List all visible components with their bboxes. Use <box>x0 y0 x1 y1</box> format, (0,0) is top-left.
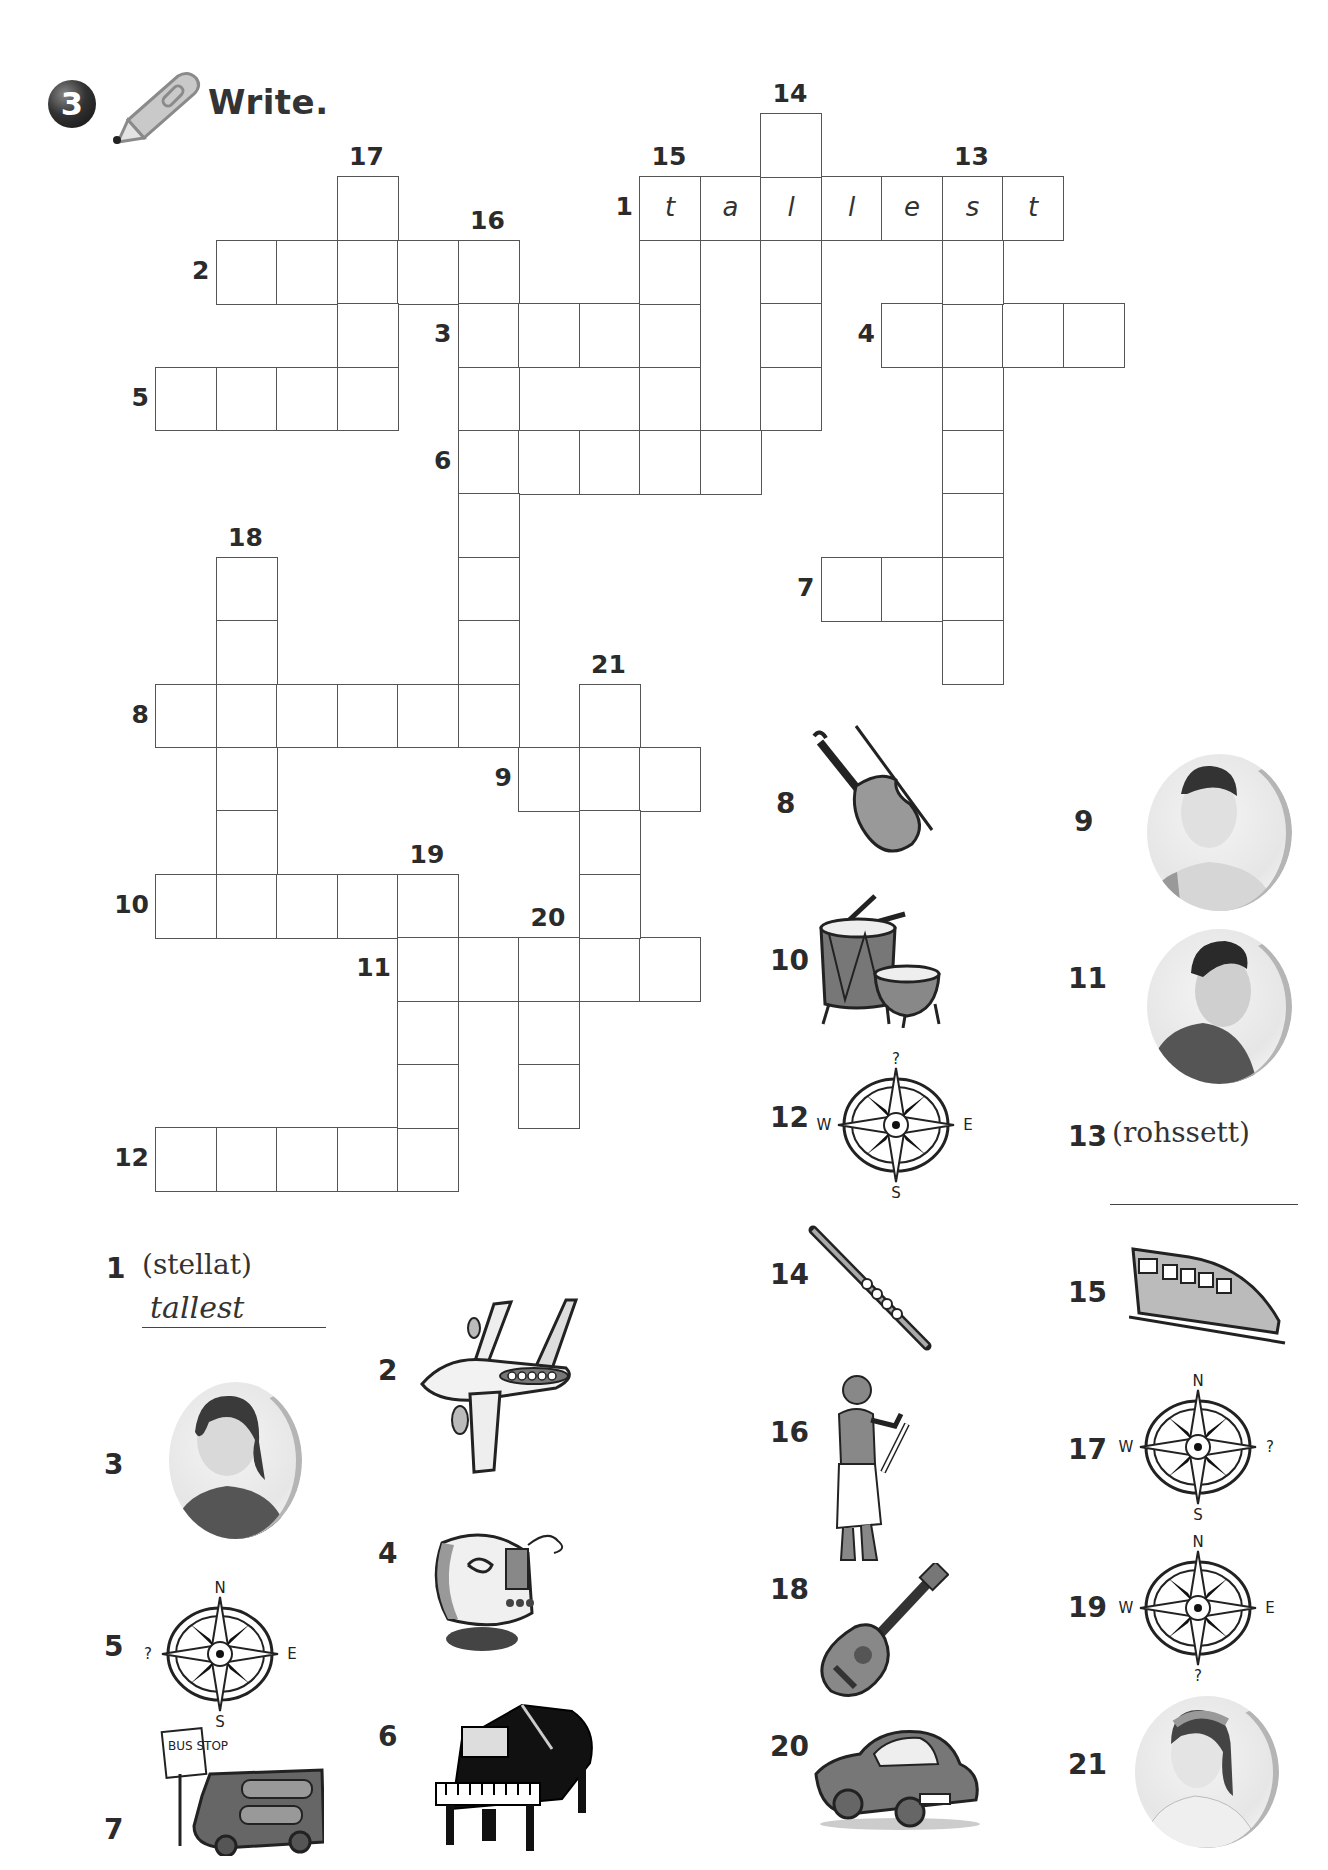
crossword-cell[interactable] <box>458 557 520 622</box>
crossword-cell[interactable] <box>579 747 641 812</box>
crossword-cell[interactable] <box>579 874 641 939</box>
crossword-cell[interactable] <box>760 113 822 178</box>
crossword-cell[interactable] <box>639 240 701 305</box>
clue-number: 1 <box>106 1252 125 1285</box>
crossword-cell[interactable] <box>639 937 701 1002</box>
crossword-cell[interactable] <box>639 303 701 368</box>
crossword-cell[interactable] <box>216 620 278 685</box>
crossword-cell[interactable] <box>155 1127 217 1192</box>
crossword-cell[interactable] <box>458 367 520 432</box>
crossword-cell[interactable] <box>216 684 278 749</box>
crossword-cell[interactable]: l <box>760 176 822 241</box>
crossword-cell[interactable] <box>760 240 822 305</box>
bus-stop-icon: BUS STOP <box>154 1726 324 1856</box>
crossword-cell[interactable] <box>458 937 520 1002</box>
crossword-cell[interactable] <box>760 367 822 432</box>
crossword-cell[interactable] <box>337 303 399 368</box>
crossword-cell[interactable] <box>1002 303 1064 368</box>
crossword-cell[interactable] <box>155 367 217 432</box>
crossword-cell[interactable] <box>397 240 459 305</box>
crossword-cell[interactable] <box>337 240 399 305</box>
crossword-cell[interactable] <box>639 747 701 812</box>
crossword-cell[interactable] <box>155 874 217 939</box>
crossword-cell[interactable] <box>216 367 278 432</box>
crossword-cell[interactable] <box>458 684 520 749</box>
crossword-cell[interactable] <box>518 303 580 368</box>
crossword-cell[interactable] <box>518 1064 580 1129</box>
crossword-cell[interactable] <box>397 937 459 1002</box>
crossword-cell[interactable] <box>337 874 399 939</box>
crossword-cell[interactable] <box>337 176 399 241</box>
crossword-cell[interactable] <box>942 430 1004 495</box>
crossword-cell[interactable]: t <box>639 176 701 241</box>
crossword-cell[interactable] <box>397 684 459 749</box>
crossword-cell[interactable] <box>276 367 338 432</box>
crossword-cell[interactable]: e <box>881 176 943 241</box>
crossword-cell[interactable] <box>639 430 701 495</box>
crossword-cell[interactable] <box>579 430 641 495</box>
answer-line[interactable] <box>1110 1204 1298 1205</box>
crossword-cell[interactable] <box>458 493 520 558</box>
down-clue-number: 18 <box>216 523 276 552</box>
crossword-cell[interactable] <box>518 747 580 812</box>
crossword-cell[interactable] <box>397 1127 459 1192</box>
crossword-cell[interactable] <box>881 557 943 622</box>
crossword-cell[interactable] <box>639 367 701 432</box>
clue-number: 18 <box>770 1573 809 1606</box>
crossword-cell[interactable] <box>579 303 641 368</box>
crossword-cell[interactable] <box>397 1064 459 1129</box>
crossword-cell[interactable] <box>700 430 762 495</box>
crossword-cell[interactable] <box>579 937 641 1002</box>
clue-number: 4 <box>378 1537 397 1570</box>
crossword-cell[interactable] <box>518 1001 580 1066</box>
crossword-cell[interactable] <box>216 1127 278 1192</box>
crossword-cell[interactable] <box>942 303 1004 368</box>
crossword-cell[interactable] <box>942 240 1004 305</box>
drums-icon <box>821 896 939 1028</box>
crossword-cell[interactable] <box>579 684 641 749</box>
crossword-cell[interactable] <box>216 240 278 305</box>
crossword-cell[interactable] <box>518 937 580 1002</box>
crossword-cell[interactable]: t <box>1002 176 1064 241</box>
crossword-cell[interactable] <box>216 810 278 875</box>
crossword-cell[interactable] <box>216 557 278 622</box>
crossword-cell[interactable] <box>216 874 278 939</box>
crossword-cell[interactable] <box>216 747 278 812</box>
crossword-cell[interactable]: a <box>700 176 762 241</box>
crossword-cell[interactable] <box>337 684 399 749</box>
crossword-cell[interactable] <box>337 1127 399 1192</box>
crossword-cell[interactable] <box>821 557 883 622</box>
crossword-cell[interactable] <box>458 430 520 495</box>
crossword-cell[interactable] <box>518 430 580 495</box>
clue-number: 21 <box>1068 1748 1107 1781</box>
crossword-cell[interactable] <box>942 557 1004 622</box>
crossword-cell[interactable] <box>942 620 1004 685</box>
crossword-cell[interactable]: l <box>821 176 883 241</box>
crossword-cell[interactable] <box>881 303 943 368</box>
crossword-cell[interactable] <box>276 684 338 749</box>
egyptian-scribe-icon <box>821 1374 925 1564</box>
crossword-cell[interactable] <box>942 493 1004 558</box>
crossword-cell[interactable] <box>458 240 520 305</box>
svg-text:?: ? <box>1194 1667 1202 1683</box>
compass-rose-icon: NSW? <box>1118 1372 1278 1522</box>
crossword-cell[interactable] <box>458 303 520 368</box>
clue-number: 3 <box>104 1448 123 1481</box>
svg-text:?: ? <box>892 1050 900 1068</box>
crossword-cell[interactable] <box>1063 303 1125 368</box>
answer-line[interactable] <box>142 1327 326 1328</box>
crossword-cell[interactable]: s <box>942 176 1004 241</box>
crossword-cell[interactable] <box>276 240 338 305</box>
crossword-cell[interactable] <box>760 303 822 368</box>
crossword-cell[interactable] <box>155 684 217 749</box>
crossword-cell[interactable] <box>458 620 520 685</box>
crossword-cell[interactable] <box>337 367 399 432</box>
crossword-cell[interactable] <box>276 874 338 939</box>
crossword-cell[interactable] <box>942 367 1004 432</box>
crossword-cell[interactable] <box>397 874 459 939</box>
clue-number: 9 <box>1074 805 1093 838</box>
across-clue-number: 1 <box>583 192 633 221</box>
crossword-cell[interactable] <box>397 1001 459 1066</box>
crossword-cell[interactable] <box>276 1127 338 1192</box>
crossword-cell[interactable] <box>579 810 641 875</box>
